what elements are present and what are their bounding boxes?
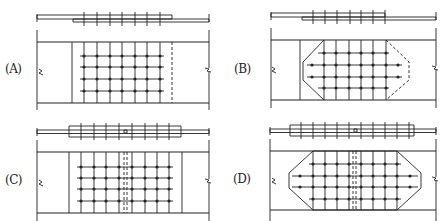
break-mark-icon	[39, 180, 43, 186]
break-mark-icon	[39, 69, 43, 75]
panel-d-plan	[270, 139, 438, 221]
panel-d-label: (D)	[233, 172, 250, 186]
gap-mark	[124, 130, 127, 133]
panel-d-elevation	[270, 122, 436, 139]
break-mark-icon	[205, 68, 211, 72]
panel-a-plan	[37, 30, 211, 110]
steel-splice-plate-diagram: (A) (B) (C) (D)	[0, 0, 448, 221]
panel-a-label: (A)	[5, 62, 22, 76]
panel-b-label: (B)	[234, 62, 251, 76]
panel-b-plan	[271, 28, 438, 108]
break-mark-icon	[272, 178, 276, 184]
panel-d	[270, 122, 438, 221]
panel-c-label: (C)	[5, 173, 22, 187]
panel-c-elevation	[37, 123, 209, 140]
panel-d-bolts	[298, 162, 411, 200]
panel-d-splice-gap	[353, 151, 356, 210]
panel-a-plate-lines	[84, 42, 160, 103]
panel-b-elevation	[271, 10, 436, 24]
panel-a	[37, 12, 211, 110]
panel-a-elevation	[37, 12, 209, 26]
gap-mark	[354, 129, 357, 132]
break-mark-icon	[432, 66, 438, 70]
break-mark-icon	[205, 179, 211, 183]
panel-c-splice-gap	[124, 152, 127, 213]
panel-b	[271, 10, 438, 108]
break-mark-icon	[272, 67, 276, 73]
break-mark-icon	[432, 177, 438, 181]
panel-c-plan	[37, 140, 211, 221]
panel-c	[37, 123, 211, 221]
